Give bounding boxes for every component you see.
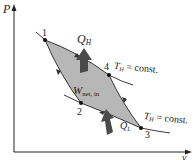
point-label-3: 3	[145, 130, 150, 140]
pv-diagram	[0, 0, 195, 160]
cycle-area	[45, 40, 141, 128]
y-axis-label: P	[3, 3, 10, 15]
work-label: Wnet, in	[73, 85, 99, 98]
point-label-4: 4	[104, 62, 109, 72]
state-point-3	[139, 126, 143, 130]
state-point-4	[107, 73, 111, 77]
state-point-2	[79, 101, 83, 105]
point-label-2: 2	[77, 107, 82, 117]
state-point-1	[43, 38, 47, 42]
y-axis-arrow-icon	[12, 4, 17, 11]
q-low-label: QL	[120, 121, 131, 132]
point-label-1: 1	[42, 28, 47, 38]
q-high-label: QH	[77, 33, 91, 46]
x-axis-label: v	[182, 153, 186, 160]
